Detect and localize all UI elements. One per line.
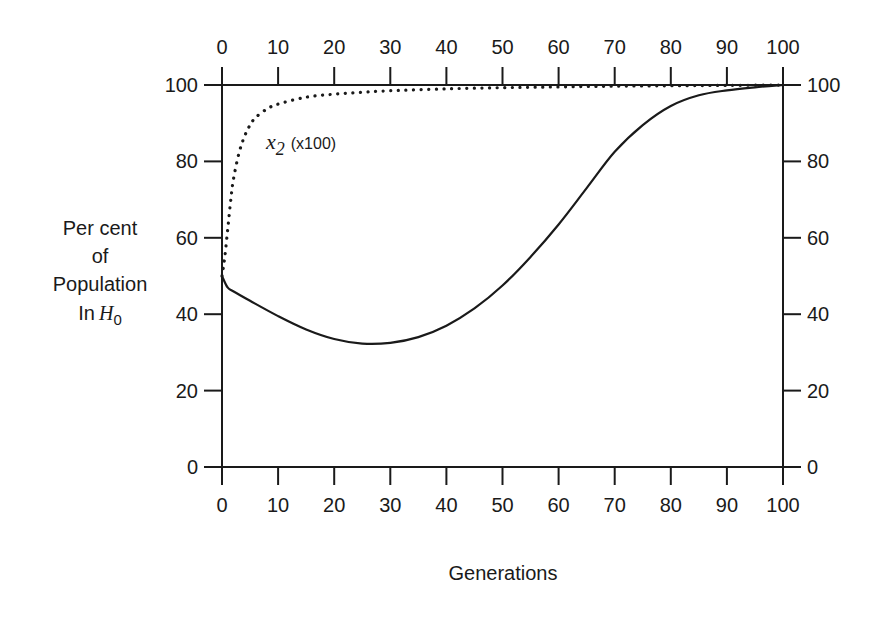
- annotation-suffix: (x100): [291, 135, 336, 152]
- top-x-tick-label: 10: [267, 36, 289, 58]
- x-tick-label: 90: [716, 494, 738, 516]
- ticks: 0102030405060708090100010203040506070809…: [165, 36, 841, 516]
- top-x-tick-label: 40: [435, 36, 457, 58]
- x-tick-label: 20: [323, 494, 345, 516]
- right-y-tick-label: 20: [807, 380, 829, 402]
- series-group: [222, 85, 783, 344]
- series-annotation: x2(x100): [265, 129, 336, 159]
- annotation-sub: 2: [276, 139, 285, 159]
- y-tick-label: 100: [165, 74, 198, 96]
- right-y-tick-label: 40: [807, 303, 829, 325]
- y-axis-title-prefix: In: [78, 302, 95, 324]
- right-y-tick-label: 100: [807, 74, 840, 96]
- right-y-tick-label: 0: [807, 456, 818, 478]
- top-x-tick-label: 30: [379, 36, 401, 58]
- chart: 0102030405060708090100010203040506070809…: [0, 0, 880, 620]
- chart-canvas: 0102030405060708090100010203040506070809…: [0, 0, 880, 620]
- top-x-tick-label: 100: [766, 36, 799, 58]
- right-y-tick-label: 80: [807, 150, 829, 172]
- x-tick-label: 40: [435, 494, 457, 516]
- x-tick-label: 30: [379, 494, 401, 516]
- x-tick-label: 60: [547, 494, 569, 516]
- series-h0-solid-line: [222, 85, 783, 344]
- top-x-tick-label: 60: [547, 36, 569, 58]
- top-x-tick-label: 50: [491, 36, 513, 58]
- x-tick-label: 100: [766, 494, 799, 516]
- x-axis-title: Generations: [449, 562, 558, 584]
- annotation-var: x: [265, 129, 276, 154]
- y-tick-label: 80: [176, 150, 198, 172]
- top-x-tick-label: 20: [323, 36, 345, 58]
- x-tick-label: 70: [604, 494, 626, 516]
- y-axis-title-var: H: [98, 302, 115, 324]
- y-tick-label: 60: [176, 227, 198, 249]
- y-axis-title-line1: Per cent: [63, 217, 138, 239]
- axes: [210, 71, 795, 485]
- y-tick-label: 20: [176, 380, 198, 402]
- y-axis-title-sub: 0: [113, 311, 121, 328]
- x-tick-label: 0: [216, 494, 227, 516]
- top-x-tick-label: 80: [660, 36, 682, 58]
- x-tick-label: 10: [267, 494, 289, 516]
- x-tick-label: 50: [491, 494, 513, 516]
- series-x2-dotted-line: [222, 85, 783, 276]
- y-axis-title-line3: Population: [53, 273, 148, 295]
- y-axis-title-line2: of: [92, 245, 109, 267]
- y-tick-label: 40: [176, 303, 198, 325]
- top-x-tick-label: 90: [716, 36, 738, 58]
- x-tick-label: 80: [660, 494, 682, 516]
- top-x-tick-label: 70: [604, 36, 626, 58]
- top-x-tick-label: 0: [216, 36, 227, 58]
- y-tick-label: 0: [187, 456, 198, 478]
- y-axis-title-line4: InH0: [78, 302, 121, 328]
- right-y-tick-label: 60: [807, 227, 829, 249]
